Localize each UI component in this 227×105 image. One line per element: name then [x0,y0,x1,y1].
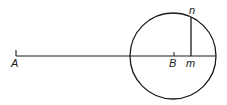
geometry-diagram: A B m n [0,0,227,105]
label-n: n [189,4,195,16]
label-b: B [169,57,176,69]
label-a: A [10,57,18,69]
label-m: m [186,57,195,69]
